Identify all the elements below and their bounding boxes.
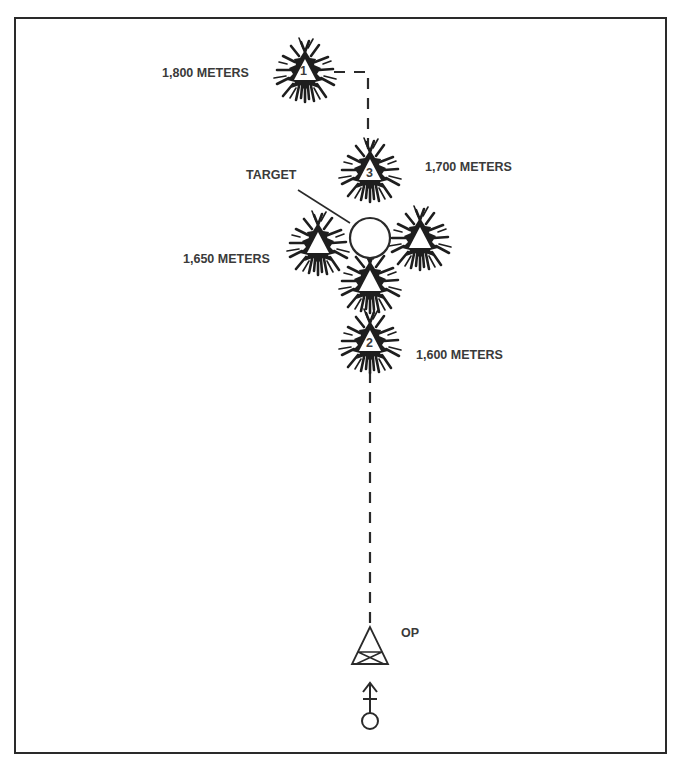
- fire-adjustment-diagram: [0, 0, 680, 767]
- range-label-1800: 1,800 METERS: [162, 66, 249, 80]
- burst-right-icon: [389, 206, 451, 270]
- burst-2-number: 2: [366, 336, 373, 350]
- observation-post-icon: [352, 627, 388, 664]
- range-label-1700: 1,700 METERS: [425, 160, 512, 174]
- burst-1-number: 1: [300, 64, 307, 78]
- target-pointer-line: [298, 190, 350, 223]
- op-label: OP: [401, 626, 419, 640]
- direction-arrow-icon: [362, 683, 378, 729]
- range-label-1600: 1,600 METERS: [416, 348, 503, 362]
- burst-3-number: 3: [366, 166, 373, 180]
- range-label-1650: 1,650 METERS: [183, 252, 270, 266]
- target-label: TARGET: [246, 168, 296, 182]
- target-circle-icon: [350, 218, 390, 258]
- burst-left-icon: [287, 211, 349, 275]
